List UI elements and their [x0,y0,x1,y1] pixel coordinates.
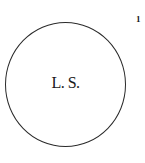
seal-label: L. S. [6,74,125,92]
seal-circle: L. S. [5,22,126,147]
footnote-marker: 1 [136,14,141,24]
